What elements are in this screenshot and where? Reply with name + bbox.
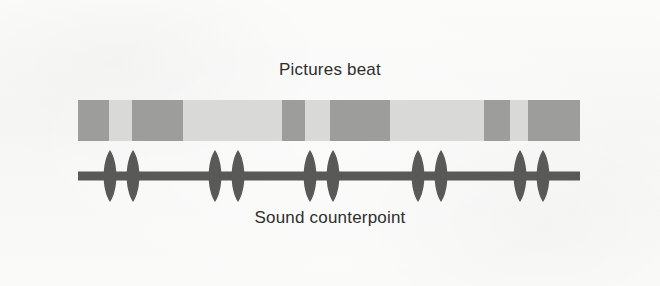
sound-pulse [327, 150, 340, 202]
sound-pulse [209, 150, 222, 202]
sound-pulse [435, 150, 448, 202]
sound-pulse [537, 150, 550, 202]
sound-pulse [304, 150, 317, 202]
sound-counterpoint-label: Sound counterpoint [0, 208, 660, 228]
pictures-beat-track [78, 100, 580, 141]
sound-pulse [514, 150, 527, 202]
sound-pulse [412, 150, 425, 202]
figure-container: Pictures beat Sound counterpoint [0, 0, 660, 286]
sound-waveform-svg [78, 148, 580, 204]
beat-block [282, 100, 305, 141]
sound-pulse [127, 150, 140, 202]
waveform-shapes [78, 150, 580, 202]
figure-content: Pictures beat Sound counterpoint [0, 0, 660, 286]
beat-block [330, 100, 390, 141]
beat-block [484, 100, 510, 141]
pictures-beat-label: Pictures beat [0, 60, 660, 80]
sound-counterpoint-track [78, 148, 580, 204]
beat-block [78, 100, 109, 141]
beat-block [528, 100, 580, 141]
sound-pulse [104, 150, 117, 202]
sound-pulse [232, 150, 245, 202]
beat-block [132, 100, 183, 141]
